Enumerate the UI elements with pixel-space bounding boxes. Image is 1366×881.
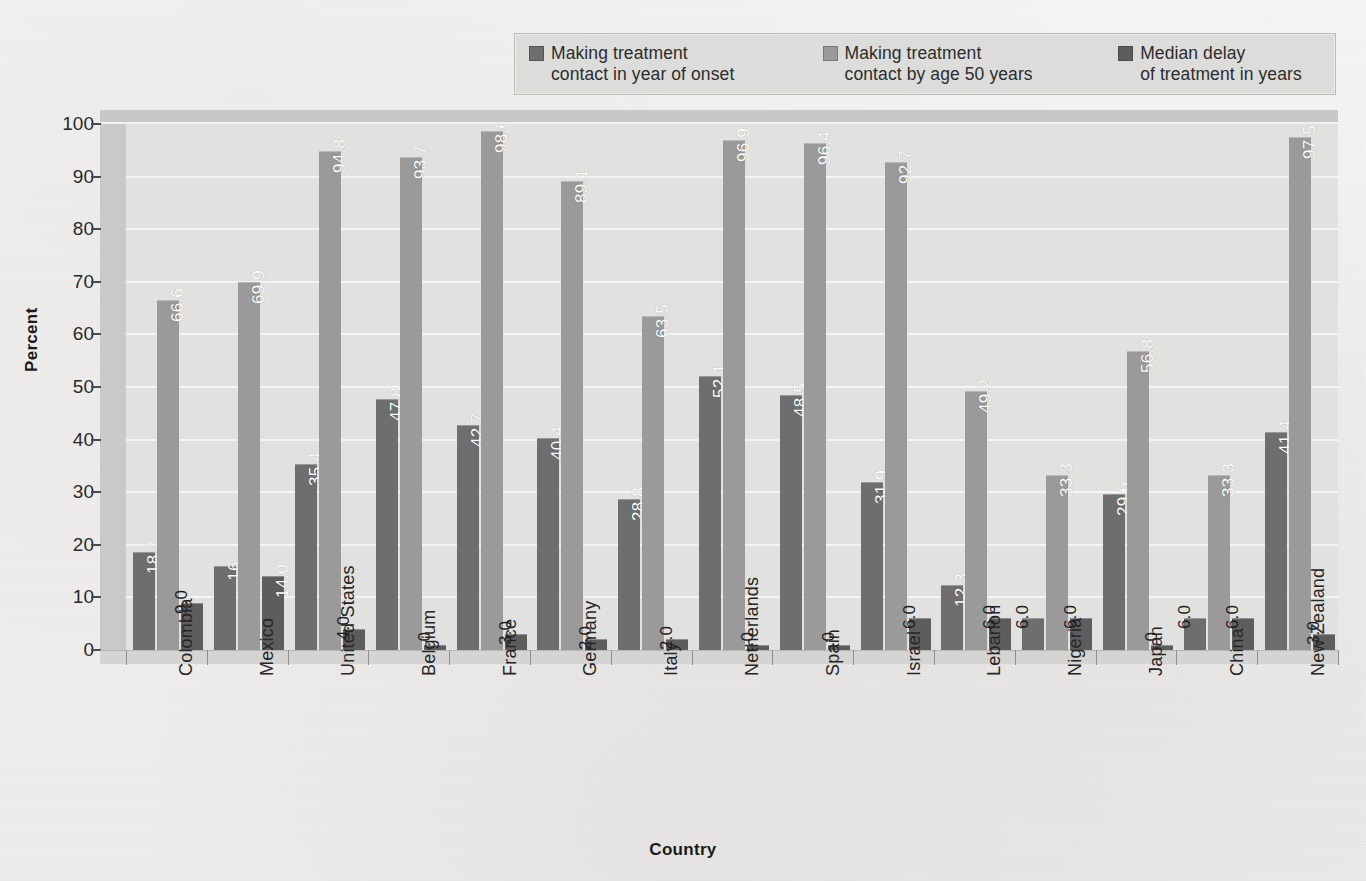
bar-value-label: 6.0 <box>1223 605 1243 629</box>
x-category-label: Japan <box>1146 626 1167 676</box>
x-category-label: Spain <box>823 629 844 676</box>
y-tick-mark <box>91 544 101 546</box>
bar-value-label: 66.6 <box>168 288 188 322</box>
bar-value-label: 97.5 <box>1300 125 1320 159</box>
bar-value-label: 6.0 <box>1175 605 1195 629</box>
chart-page: Making treatment contact in year of onse… <box>0 0 1366 881</box>
bar-value-label: 98.6 <box>492 124 512 153</box>
x-tick-mark <box>1096 650 1097 665</box>
bar-group: 1669.914.0 <box>214 124 284 650</box>
y-tick-label: 10 <box>48 586 94 608</box>
bar-group: 42.798.63.0 <box>457 124 527 650</box>
x-tick-mark <box>1015 650 1016 665</box>
bar-group: 47.893.71.0 <box>376 124 446 650</box>
x-category-label: France <box>500 619 521 676</box>
bar: 63.5 <box>642 316 664 650</box>
bar: 47.8 <box>376 399 398 650</box>
bar-value-label: 69.9 <box>249 270 269 304</box>
bar: 92.7 <box>885 162 907 650</box>
bar: 56.8 <box>1127 351 1149 650</box>
bar-value-label: 6.0 <box>1013 605 1033 629</box>
bar-value-label: 33.3 <box>1057 463 1077 497</box>
bar-value-label: 63.5 <box>653 304 673 338</box>
bar-group: 6.033.36.0 <box>1184 124 1254 650</box>
plot-surface: 18.766.69.01669.914.035.494.84.047.893.7… <box>126 124 1338 650</box>
bar: 42.7 <box>457 425 479 650</box>
bar-value-label: 93.7 <box>411 145 431 179</box>
x-category-label: Lebanon <box>984 605 1005 676</box>
x-tick-mark <box>1338 650 1339 665</box>
bar-group: 52.196.91.0 <box>699 124 769 650</box>
y-tick-label: 60 <box>48 323 94 345</box>
bar: 41.4 <box>1265 432 1287 650</box>
y-tick-label: 80 <box>48 218 94 240</box>
bar-value-label: 49.2 <box>976 379 996 413</box>
y-tick-label: 30 <box>48 481 94 503</box>
plot-left-wall <box>100 110 126 650</box>
bar-group: 40.489.12.0 <box>537 124 607 650</box>
x-tick-mark <box>207 650 208 665</box>
bar-group: 29.656.81.0 <box>1103 124 1173 650</box>
bar-value-label: 56.8 <box>1138 339 1158 373</box>
x-category-label: Italy <box>661 642 682 676</box>
x-category-label: Germany <box>580 601 601 676</box>
bar: 40.4 <box>537 438 559 651</box>
bar: 12.3 <box>941 585 963 650</box>
x-tick-mark <box>288 650 289 665</box>
y-tick-label: 0 <box>48 639 94 661</box>
y-tick-mark <box>91 281 101 283</box>
y-tick-label: 90 <box>48 166 94 188</box>
bar: 35.4 <box>295 464 317 650</box>
bar: 93.7 <box>400 157 422 650</box>
bar-group: 6.033.36.0 <box>1022 124 1092 650</box>
x-tick-mark <box>126 650 127 665</box>
x-category-label: Belgium <box>419 610 440 676</box>
x-category-label: Netherlands <box>742 577 763 676</box>
bar: 6.0 <box>1184 618 1206 650</box>
x-tick-mark <box>368 650 369 665</box>
bar: 16 <box>214 566 236 650</box>
x-tick-mark <box>530 650 531 665</box>
x-tick-mark <box>772 650 773 665</box>
bar-value-label: 14.0 <box>273 564 293 598</box>
y-tick-mark <box>91 228 101 230</box>
x-tick-mark <box>934 650 935 665</box>
bar: 96.9 <box>723 140 745 650</box>
y-tick-label: 40 <box>48 429 94 451</box>
y-tick-mark <box>91 491 101 493</box>
y-tick-label: 70 <box>48 271 94 293</box>
x-tick-mark <box>692 650 693 665</box>
x-tick-mark <box>449 650 450 665</box>
bar: 31.9 <box>861 482 883 650</box>
y-tick-label: 20 <box>48 534 94 556</box>
bar: 48.5 <box>780 395 802 650</box>
bar: 28.8 <box>618 499 640 650</box>
bar-value-label: 6.0 <box>900 605 920 629</box>
bar-group: 48.596.41.0 <box>780 124 850 650</box>
bar-value-label: 89.1 <box>572 169 592 203</box>
bar-value-label: 96.9 <box>734 128 754 162</box>
bar: 6.0 <box>1022 618 1044 650</box>
y-tick-mark <box>91 596 101 598</box>
y-tick-mark <box>91 176 101 178</box>
y-tick-label: 100 <box>48 113 94 135</box>
x-tick-mark <box>1176 650 1177 665</box>
bar: 98.6 <box>481 131 503 650</box>
y-tick-mark <box>91 439 101 441</box>
bar-group: 28.863.52.0 <box>618 124 688 650</box>
y-tick-mark <box>91 386 101 388</box>
x-category-label: Mexico <box>257 618 278 676</box>
bar: 52.1 <box>699 376 721 650</box>
bar: 69.9 <box>238 282 260 650</box>
plot-area: 18.766.69.01669.914.035.494.84.047.893.7… <box>0 0 1366 881</box>
bar-group: 12.349.26.0 <box>941 124 1011 650</box>
x-category-label: Colombia <box>176 598 197 676</box>
bar: 89.1 <box>561 181 583 650</box>
bar: 29.6 <box>1103 494 1125 650</box>
x-category-label: Nigeria <box>1065 618 1086 676</box>
bar-group: 31.992.76.0 <box>861 124 931 650</box>
bar: 18.7 <box>133 552 155 650</box>
y-tick-mark <box>91 123 101 125</box>
bar-value-label: 92.7 <box>896 150 916 184</box>
y-tick-label: 50 <box>48 376 94 398</box>
